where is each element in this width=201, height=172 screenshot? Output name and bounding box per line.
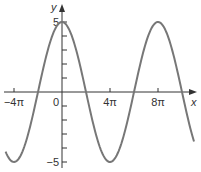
x-axis-arrow [189,89,197,95]
y-axis-arrow [59,4,65,12]
x-tick-label: −4π [4,96,25,108]
y-axis-label: y [50,1,58,13]
x-tick-label: 8π [151,96,165,108]
x-axis-label: x [190,96,197,108]
chart: −4π04π8π5−5xy [0,0,201,172]
x-tick-label: 0 [53,96,59,108]
x-tick-label: 4π [103,96,117,108]
y-tick-label: −5 [46,156,59,168]
labels: −4π04π8π5−5xy [4,1,197,168]
axes [4,4,197,168]
